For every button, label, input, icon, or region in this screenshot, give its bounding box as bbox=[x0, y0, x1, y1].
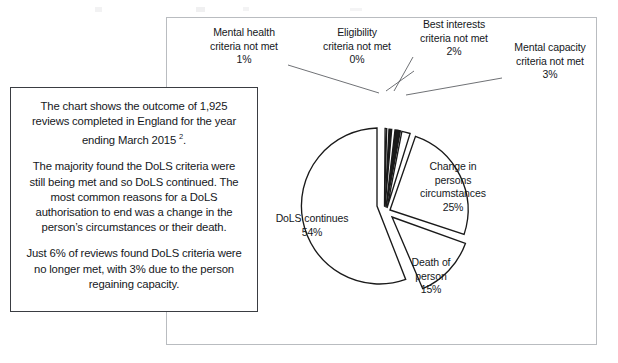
commentary-paragraph-2: The majority found the DoLS criteria wer… bbox=[24, 159, 244, 235]
label-line-2: criteria not met bbox=[404, 32, 504, 46]
label-percent: 54% bbox=[258, 226, 366, 240]
leader-line-mental-health bbox=[288, 65, 379, 93]
scan-artifact-strip bbox=[0, 0, 618, 8]
label-percent: 25% bbox=[406, 201, 500, 215]
pie-label-eligibility: Eligibility criteria not met 0% bbox=[305, 26, 409, 67]
label-line-3: circumstances bbox=[406, 187, 500, 201]
label-line-1: Best interests bbox=[404, 18, 504, 32]
label-line-1: Mental health bbox=[186, 26, 302, 40]
label-line-2: persons bbox=[406, 174, 500, 188]
pie-label-mental-capacity: Mental capacity criteria not met 3% bbox=[494, 41, 606, 82]
commentary-p1-text: The chart shows the outcome of 1,925 rev… bbox=[32, 100, 236, 146]
label-line-2: criteria not met bbox=[186, 40, 302, 54]
label-percent: 0% bbox=[305, 53, 409, 67]
pie-label-best-interests: Best interests criteria not met 2% bbox=[404, 18, 504, 59]
label-line-1: Change in bbox=[406, 160, 500, 174]
commentary-p1-tail: . bbox=[183, 134, 186, 146]
pie-label-death-of-person: Death of person 15% bbox=[395, 256, 467, 297]
label-line-2: criteria not met bbox=[305, 40, 409, 54]
pie-label-mental-health: Mental health criteria not met 1% bbox=[186, 26, 302, 67]
label-percent: 2% bbox=[404, 45, 504, 59]
label-line-1: Eligibility bbox=[305, 26, 409, 40]
commentary-paragraph-1: The chart shows the outcome of 1,925 rev… bbox=[24, 99, 244, 148]
pie-label-dols-continues: DoLS continues 54% bbox=[258, 212, 366, 239]
label-line-1: Death of bbox=[395, 256, 467, 270]
label-line-1: Mental capacity bbox=[494, 41, 606, 55]
leader-line-mental-capacity bbox=[406, 78, 502, 95]
commentary-text-box: The chart shows the outcome of 1,925 rev… bbox=[10, 87, 258, 312]
label-percent: 15% bbox=[395, 283, 467, 297]
label-line-1: DoLS continues bbox=[258, 212, 366, 226]
label-percent: 1% bbox=[186, 53, 302, 67]
label-percent: 3% bbox=[494, 68, 606, 82]
pie-label-change-circumstances: Change in persons circumstances 25% bbox=[406, 160, 500, 214]
label-line-2: criteria not met bbox=[494, 55, 606, 69]
label-line-2: person bbox=[395, 270, 467, 284]
commentary-paragraph-3: Just 6% of reviews found DoLS criteria w… bbox=[24, 246, 244, 292]
